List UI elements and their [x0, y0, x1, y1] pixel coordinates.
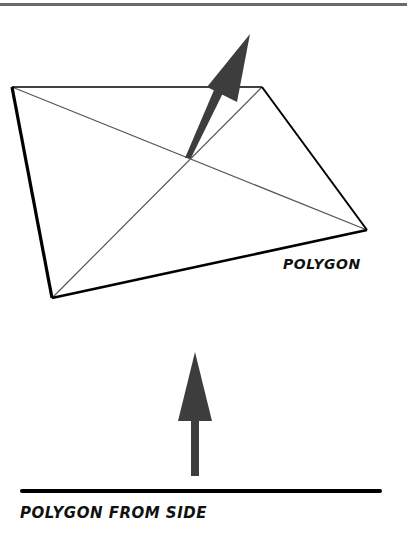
diagram-canvas: [0, 0, 407, 545]
normal-arrow-icon: [185, 34, 250, 158]
polygon-diagonal-2: [52, 87, 262, 298]
polygon-from-side-label: POLYGON FROM SIDE: [20, 504, 207, 522]
side-normal-arrow-icon: [178, 352, 212, 476]
polygon-label: POLYGON: [283, 256, 361, 272]
